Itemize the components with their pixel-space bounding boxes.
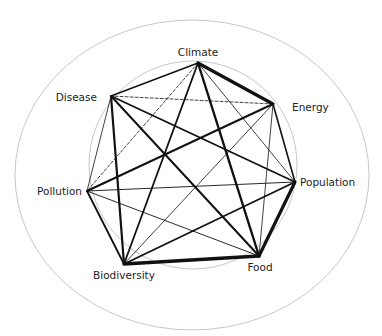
edge-population-disease (111, 96, 295, 182)
node-label-layer: ClimateEnergyPopulationFoodBiodiversityP… (37, 46, 355, 281)
interconnection-network-diagram: ClimateEnergyPopulationFoodBiodiversityP… (0, 0, 382, 336)
edge-climate-population (198, 63, 295, 182)
node-label-food: Food (247, 261, 272, 273)
edge-food-pollution (87, 191, 259, 256)
edge-biodiversity-disease (111, 96, 124, 264)
node-label-pollution: Pollution (37, 185, 82, 197)
node-label-energy: Energy (292, 101, 329, 113)
outer-boundary-ellipse (15, 20, 369, 330)
node-label-population: Population (300, 176, 355, 188)
node-label-biodiversity: Biodiversity (93, 269, 155, 281)
edge-energy-population (273, 104, 295, 182)
node-label-disease: Disease (56, 91, 97, 103)
edge-layer (87, 63, 295, 264)
edge-energy-disease (111, 96, 273, 104)
node-label-climate: Climate (178, 46, 218, 58)
